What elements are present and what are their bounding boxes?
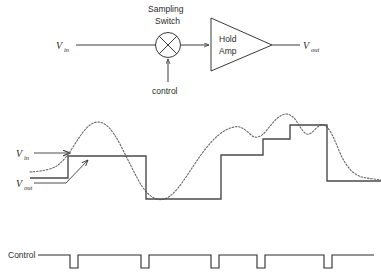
- waveform-output-leader: [34, 160, 88, 183]
- block-diagram: V in Sampling Switch control: [56, 4, 320, 96]
- hold-amp-triangle: [211, 18, 272, 71]
- waveform-input-label-base: V: [16, 148, 24, 159]
- control-label: control: [152, 86, 178, 96]
- waveform-input-label-sub: in: [24, 154, 29, 161]
- vout-staircase-path: [30, 125, 381, 199]
- waveform-output-label-base: V: [16, 178, 24, 189]
- waveform-output-label: V out: [16, 160, 88, 191]
- block-input-label-base: V: [56, 40, 64, 51]
- sampling-switch-label-line1: Sampling: [148, 4, 184, 14]
- waveform-plot: V in V out: [16, 114, 381, 200]
- control-pulse-path: [38, 255, 374, 268]
- hold-amp-block: Hold Amp: [211, 18, 272, 71]
- hold-amp-label-line1: Hold: [219, 34, 237, 44]
- waveform-output-label-sub: out: [24, 184, 33, 191]
- sampling-switch-label: Sampling Switch: [148, 4, 184, 26]
- block-output-label: V out: [303, 40, 320, 53]
- sample-hold-figure: V in Sampling Switch control: [0, 0, 381, 275]
- block-output-label-base: V: [303, 40, 311, 51]
- control-waveform-label: Control: [8, 250, 36, 260]
- block-output-label-sub: out: [311, 46, 320, 53]
- waveform-input-label: V in: [16, 148, 70, 161]
- sampling-switch-icon: [156, 33, 181, 58]
- block-input-label-sub: in: [64, 46, 69, 53]
- block-input-label: V in: [56, 40, 69, 53]
- figure-root: V in Sampling Switch control: [0, 0, 381, 275]
- hold-amp-label-line2: Amp: [219, 46, 237, 56]
- sampling-switch-label-line2: Switch: [155, 16, 180, 26]
- vin-waveform-path: [30, 114, 381, 200]
- control-waveform: Control: [8, 250, 374, 268]
